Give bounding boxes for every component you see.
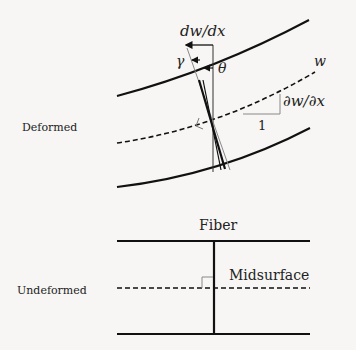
label-fiber: Fiber [199, 217, 237, 233]
label-slope-one: 1 [258, 118, 266, 133]
label-midsurface: Midsurface [229, 267, 309, 283]
label-dw-dx: dw/dx [180, 22, 226, 40]
fiber-line-secondary [203, 80, 221, 170]
undeformed-right-angle-marker [202, 277, 213, 288]
label-undeformed: Undeformed [17, 284, 87, 297]
label-theta: θ [218, 60, 227, 76]
label-partial-w-x: ∂w/∂x [283, 92, 325, 110]
slope-triangle [243, 94, 280, 114]
plate-deformation-diagram: dw/dx γ θ w ∂w/∂x 1 Deformed Fiber Midsu… [0, 0, 356, 350]
label-deformed: Deformed [22, 121, 77, 134]
label-w: w [314, 53, 326, 69]
label-gamma: γ [176, 53, 185, 69]
undeformed-section: Fiber Midsurface Undeformed [17, 217, 310, 334]
deformed-section: dw/dx γ θ w ∂w/∂x 1 Deformed [22, 20, 326, 187]
